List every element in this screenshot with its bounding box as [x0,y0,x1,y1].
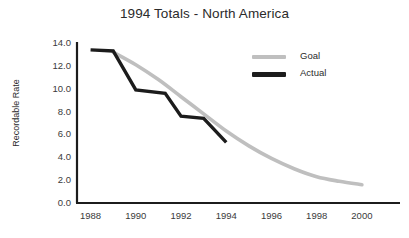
axis-lines [76,42,400,203]
legend-swatch-actual [252,72,286,77]
legend-swatch-goal [252,55,286,59]
series-line-actual [91,50,227,143]
legend-label-actual: Actual [300,67,326,78]
chart-container: 1994 Totals - North America Recordable R… [0,0,409,238]
legend-label-goal: Goal [300,50,320,61]
plot-area [0,0,409,238]
